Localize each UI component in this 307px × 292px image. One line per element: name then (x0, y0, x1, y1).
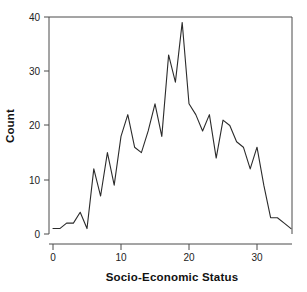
y-axis-title: Count (4, 109, 16, 143)
y-tick-label-20: 20 (29, 120, 41, 131)
x-axis-ticks (53, 244, 257, 250)
x-tick-label-30: 30 (251, 252, 263, 263)
chart-figure: 0 10 20 30 40 0 10 20 30 Socio-Economic … (0, 0, 307, 292)
x-axis-title: Socio-Economic Status (106, 271, 239, 283)
y-tick-label-30: 30 (29, 66, 41, 77)
x-tick-label-20: 20 (183, 252, 195, 263)
y-tick-label-10: 10 (29, 175, 41, 186)
y-axis-tick-labels: 0 10 20 30 40 (29, 12, 41, 240)
y-tick-label-0: 0 (34, 229, 40, 240)
x-tick-label-10: 10 (115, 252, 127, 263)
data-series-line (53, 22, 291, 228)
x-axis-tick-labels: 0 10 20 30 (50, 252, 263, 263)
x-tick-label-0: 0 (50, 252, 56, 263)
y-tick-label-40: 40 (29, 12, 41, 23)
plot-frame (49, 17, 292, 234)
line-chart-svg: 0 10 20 30 40 0 10 20 30 Socio-Economic … (0, 0, 307, 292)
y-axis-ticks (44, 17, 49, 234)
